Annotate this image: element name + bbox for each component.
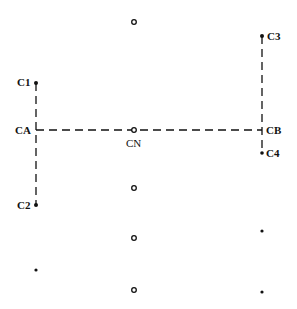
open-circle-point — [132, 288, 137, 293]
label-cb: CB — [266, 125, 281, 136]
open-circle-point — [132, 186, 137, 191]
open-circle-point — [132, 20, 137, 25]
filled-dot-point — [34, 268, 37, 271]
node-c1-dot — [34, 81, 38, 85]
node-c2-dot — [34, 203, 38, 207]
node-cn-circle — [132, 128, 137, 133]
open-circle-point — [132, 236, 137, 241]
filled-dot-point — [260, 229, 263, 232]
label-c3: C3 — [267, 31, 280, 42]
diagram-canvas — [0, 0, 297, 309]
label-ca: CA — [15, 125, 31, 136]
filled-dot-point — [260, 290, 263, 293]
node-c4-dot — [260, 151, 264, 155]
label-c4: C4 — [266, 148, 279, 159]
label-cn: CN — [126, 138, 141, 149]
node-c3-dot — [260, 34, 264, 38]
label-c2: C2 — [17, 200, 30, 211]
label-c1: C1 — [17, 77, 30, 88]
